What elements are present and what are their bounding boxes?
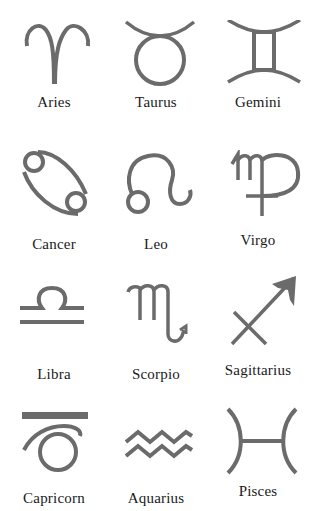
zodiac-signs-grid: Aries Taurus Gemini Cancer Leo <box>0 0 313 511</box>
sign-libra: Libra <box>2 280 106 390</box>
sign-capricorn: Capricorn <box>2 410 106 510</box>
cancer-icon <box>2 150 106 220</box>
sagittarius-icon <box>206 272 310 348</box>
virgo-icon <box>206 150 310 224</box>
taurus-icon <box>104 20 208 86</box>
sign-taurus: Taurus <box>104 20 208 130</box>
sign-cancer: Cancer <box>2 150 106 260</box>
libra-icon <box>2 280 106 340</box>
sign-label: Scorpio <box>104 366 208 383</box>
sign-label: Leo <box>104 236 208 253</box>
sign-label: Aquarius <box>104 490 208 507</box>
capricorn-icon <box>2 410 106 476</box>
sign-label: Aries <box>2 94 106 111</box>
gemini-icon <box>206 20 310 86</box>
sign-label: Sagittarius <box>206 362 310 379</box>
sign-label: Libra <box>2 366 106 383</box>
sign-gemini: Gemini <box>206 20 310 130</box>
sign-pisces: Pisces <box>206 405 310 510</box>
aries-icon <box>2 20 106 86</box>
aquarius-icon <box>104 410 208 476</box>
sign-label: Virgo <box>206 232 310 249</box>
sign-virgo: Virgo <box>206 150 310 260</box>
sign-scorpio: Scorpio <box>104 280 208 390</box>
sign-leo: Leo <box>104 150 208 260</box>
sign-label: Capricorn <box>2 490 106 507</box>
sign-label: Taurus <box>104 94 208 111</box>
sign-sagittarius: Sagittarius <box>206 272 310 390</box>
leo-icon <box>104 150 208 220</box>
sign-aries: Aries <box>2 20 106 130</box>
scorpio-icon <box>104 280 208 350</box>
sign-label: Pisces <box>206 483 310 500</box>
sign-aquarius: Aquarius <box>104 410 208 510</box>
pisces-icon <box>206 405 310 477</box>
sign-label: Cancer <box>2 236 106 253</box>
sign-label: Gemini <box>206 94 310 111</box>
